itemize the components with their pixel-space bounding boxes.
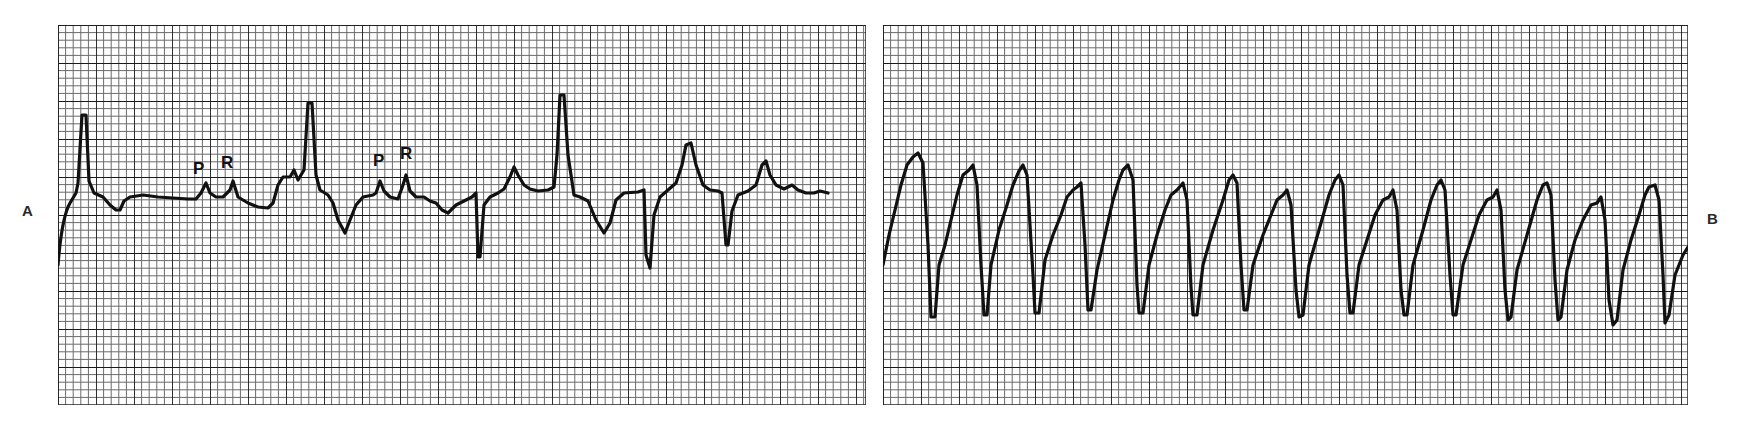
r-wave-label: R xyxy=(400,144,412,163)
panel-label-b: B xyxy=(1707,210,1718,227)
r-wave-label: R xyxy=(221,153,233,172)
p-wave-label: P xyxy=(193,159,204,178)
ecg-strip-a: P R P R xyxy=(58,25,866,405)
p-wave-label: P xyxy=(373,151,384,170)
ecg-chart-b xyxy=(883,25,1688,405)
ecg-chart-a: P R P R xyxy=(58,25,866,405)
grid-a xyxy=(58,25,866,405)
panel-label-a: A xyxy=(22,202,33,219)
ecg-strip-b xyxy=(883,25,1688,405)
